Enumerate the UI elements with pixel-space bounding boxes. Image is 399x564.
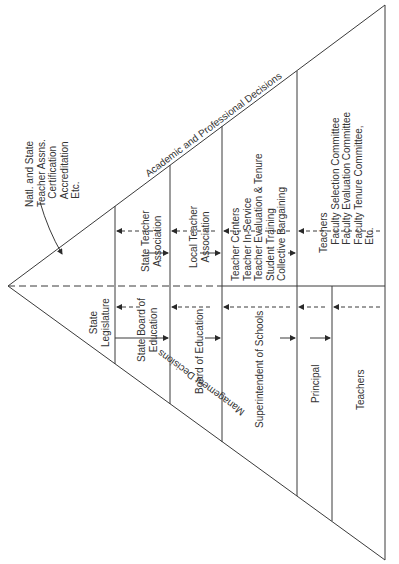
triangle-diagram	[0, 0, 399, 564]
local-teacher-association-label: Local Teacher Association	[188, 206, 211, 268]
teacher-centers-label: Teacher Centers Teacher In-Service Teach…	[230, 153, 288, 281]
external-note: Natl. and State Teacher Assns. Certifica…	[24, 139, 82, 207]
state-board-of-education-label: State Board of Education	[136, 298, 159, 362]
teachers-committees-label: Teachers Faculty Selection Committee Fac…	[318, 112, 376, 253]
board-of-education-label: Board of Education	[194, 309, 206, 394]
state-teacher-association-label: State Teacher Association	[140, 210, 163, 272]
principal-label: Principal	[310, 365, 322, 403]
teachers-label: Teachers	[355, 369, 367, 410]
state-legislature-label: State Legislature	[88, 298, 111, 347]
note-leader	[40, 202, 62, 254]
superintendent-label: Superintendent of Schools	[254, 311, 266, 428]
